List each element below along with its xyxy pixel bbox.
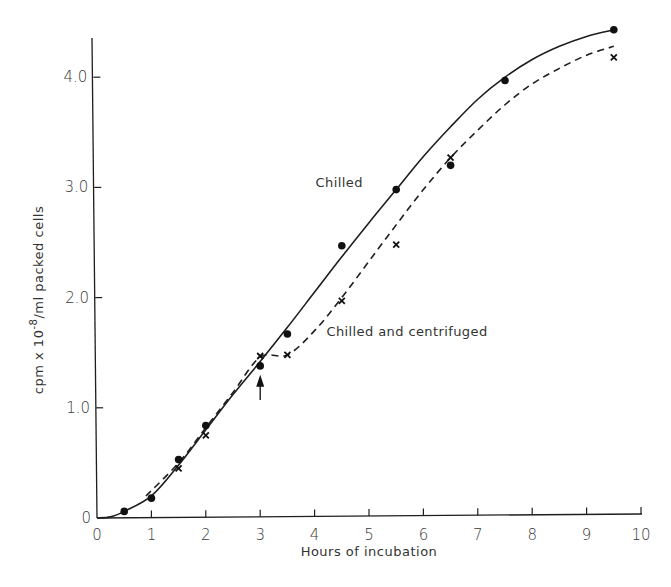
data-point-chilled (338, 242, 346, 250)
data-point-centrifuged (448, 155, 454, 161)
y-axis-ticks: 01.02.03.04.0 (64, 68, 104, 527)
data-point-chilled (610, 26, 618, 34)
data-point-chilled (392, 186, 400, 194)
x-axis-title: Hours of incubation (301, 544, 438, 559)
y-tick-label: 2.0 (65, 289, 89, 307)
y-axis-title-post: /ml packed cells (31, 206, 46, 319)
x-tick-label: 0 (92, 526, 102, 544)
y-tick-label: 0 (81, 509, 91, 527)
x-tick-label: 3 (255, 526, 265, 544)
data-point-centrifuged (611, 54, 617, 60)
data-point-centrifuged (339, 298, 345, 304)
data-point-chilled (447, 162, 455, 170)
data-point-centrifuged (393, 242, 399, 248)
data-point-chilled (501, 77, 509, 85)
label-chilled-centrifuged: Chilled and centrifuged (326, 324, 487, 339)
y-axis-title: cpm x 10-8/ml packed cells (28, 206, 46, 394)
series-lines (97, 30, 614, 518)
axes (92, 38, 642, 518)
chart: 012345678910 01.02.03.04.0 ChilledChille… (0, 0, 671, 587)
x-tick-label: 5 (364, 526, 374, 544)
x-tick-label: 8 (527, 526, 537, 544)
annotations: ChilledChilled and centrifuged (256, 175, 487, 400)
data-point-chilled (284, 330, 292, 338)
x-tick-label: 7 (473, 526, 483, 544)
data-point-chilled (256, 362, 264, 370)
data-point-chilled (202, 422, 210, 430)
x-axis-ticks: 012345678910 (92, 507, 650, 544)
label-chilled: Chilled (316, 175, 363, 190)
x-tick-label: 10 (631, 526, 650, 544)
data-point-chilled (175, 456, 183, 464)
series-line-chilled-centrifuged (146, 46, 614, 496)
y-tick-label: 1.0 (66, 399, 90, 417)
data-point-chilled (148, 494, 156, 502)
y-tick-label: 3.0 (64, 178, 88, 196)
x-tick-label: 4 (310, 526, 320, 544)
data-point-chilled (120, 508, 128, 516)
x-tick-label: 1 (147, 526, 157, 544)
x-tick-label: 6 (419, 526, 429, 544)
series-line-chilled (97, 30, 614, 518)
y-tick-label: 4.0 (64, 68, 88, 86)
y-axis-title-pre: cpm x 10 (31, 330, 46, 395)
arrow-head-icon (256, 375, 264, 387)
data-point-centrifuged (203, 432, 209, 438)
y-axis-title-sup: -8 (28, 319, 39, 330)
x-tick-label: 2 (201, 526, 211, 544)
y-axis-line (92, 38, 97, 518)
x-tick-label: 9 (582, 526, 592, 544)
